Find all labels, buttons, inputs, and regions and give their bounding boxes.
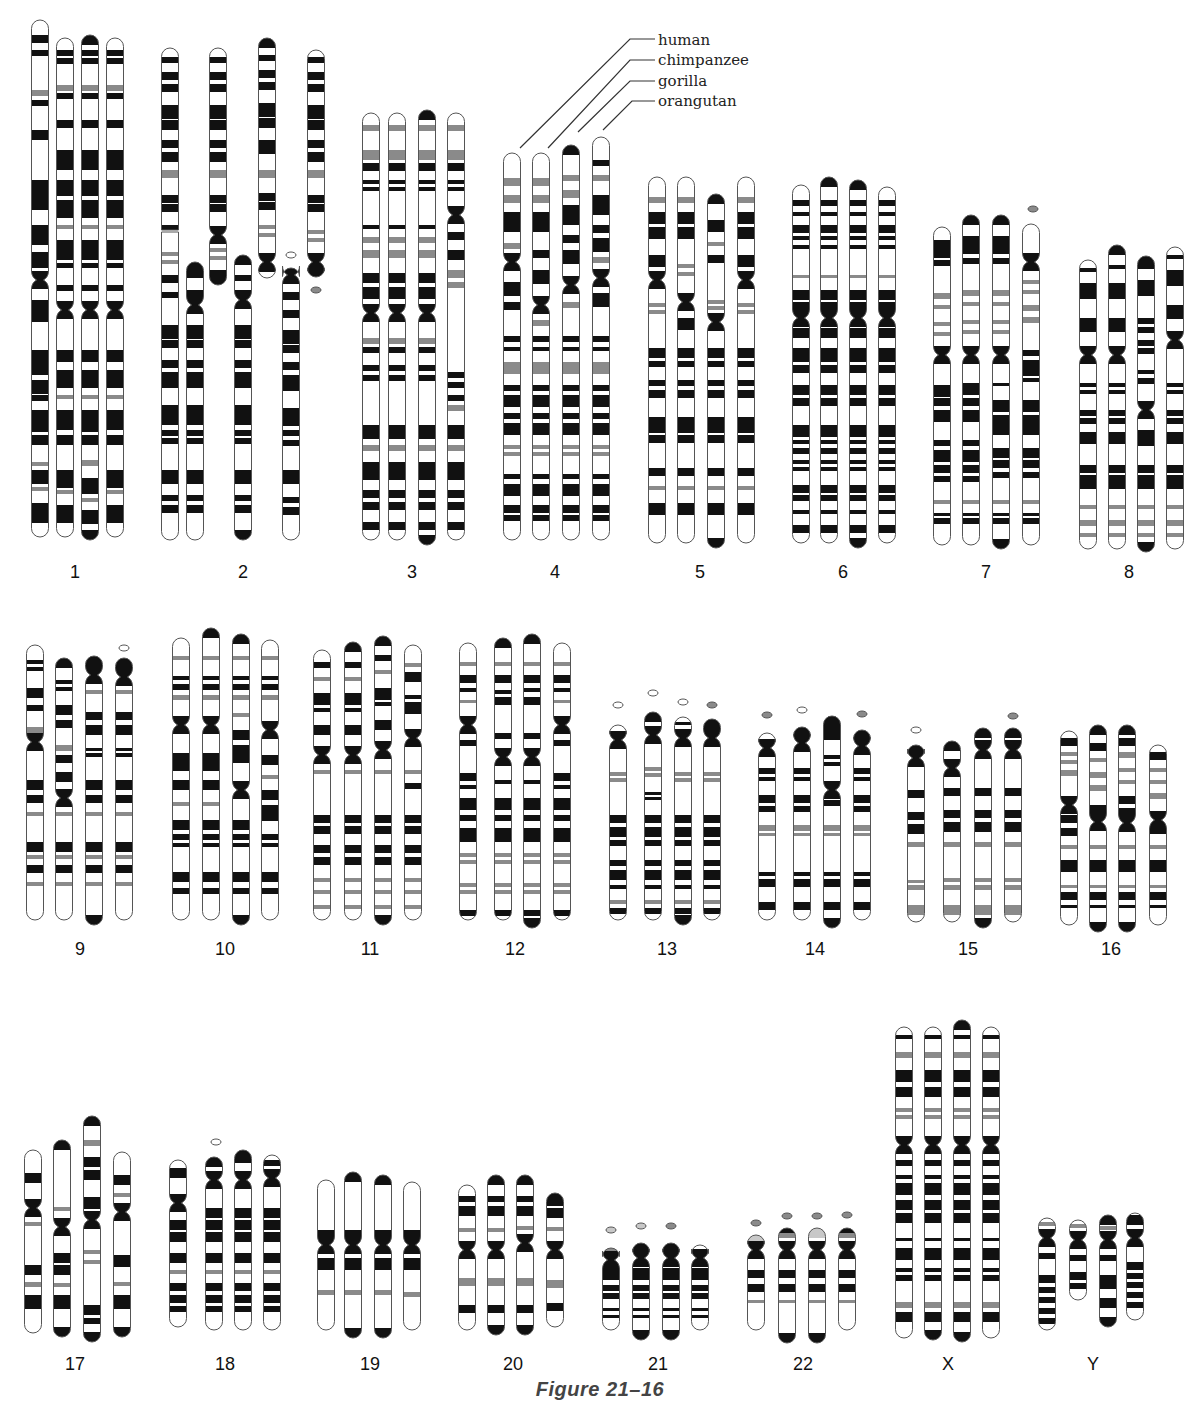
chromosome-group-16: 16 xyxy=(1061,725,1167,959)
chromatid-3-chimpanzee xyxy=(389,113,406,540)
satellite-icon xyxy=(857,711,867,717)
chromatid-16-gorilla xyxy=(1119,725,1136,932)
chromatid-21-orangutan xyxy=(692,1245,709,1330)
chromatid-5-gorilla xyxy=(708,194,725,548)
leader-line-orangutan xyxy=(603,101,655,130)
satellite-icon xyxy=(286,252,296,258)
chromosome-label-20: 20 xyxy=(503,1354,523,1374)
chromatid-20-gorilla xyxy=(517,1175,534,1335)
chromosome-label-19: 19 xyxy=(360,1354,380,1374)
chromosome-label-4: 4 xyxy=(550,562,560,582)
chromatid-5-human xyxy=(649,177,666,543)
chromatid-22-orangutan xyxy=(839,1228,856,1330)
chromatid-7-orangutan xyxy=(1023,224,1040,545)
chromatid-8-orangutan xyxy=(1167,247,1184,549)
chromosome-group-10: 10 xyxy=(173,628,279,959)
chromatid-12-orangutan xyxy=(554,643,571,920)
chromatid-12-human xyxy=(460,643,477,920)
chromatid-18-chimpanzee xyxy=(206,1157,223,1330)
chromatid-1-chimpanzee xyxy=(57,38,74,537)
chromatid-13-gorilla xyxy=(675,717,692,925)
chromatid-21-human xyxy=(603,1248,620,1330)
satellite-icon xyxy=(797,707,807,713)
chromosome-group-15: 15 xyxy=(908,713,1022,959)
satellite-icon xyxy=(762,712,772,718)
chromosome-label-1: 1 xyxy=(70,562,80,582)
chromosome-group-12: 12 xyxy=(460,634,571,959)
chromatid-5-orangutan xyxy=(738,177,755,543)
chromatid-2-human xyxy=(162,48,179,230)
chromosome-label-12: 12 xyxy=(505,939,525,959)
chromosome-group-7: 7 xyxy=(934,206,1040,582)
chromosome-group-2: 2 xyxy=(162,38,325,582)
chromatid-X-gorilla xyxy=(954,1020,971,1342)
chromosome-group-18: 18 xyxy=(170,1139,281,1374)
chromosome-label-18: 18 xyxy=(215,1354,235,1374)
band-pattern xyxy=(488,1175,505,1335)
chromatid-15-orangutan xyxy=(1005,728,1022,922)
chromosome-label-14: 14 xyxy=(805,939,825,959)
band-pattern xyxy=(206,1157,223,1312)
satellite-icon xyxy=(613,702,623,708)
satellite-icon xyxy=(119,645,129,651)
chromatid-16-orangutan xyxy=(1150,745,1167,925)
chromatid-Y-human xyxy=(1039,1218,1056,1330)
chromatid-9-human xyxy=(27,645,44,920)
chromosome-group-22: 22 xyxy=(748,1212,856,1374)
chromosome-group-20: 20 xyxy=(459,1175,564,1374)
chromosome-group-5: 5 xyxy=(649,177,755,582)
chromatid-2-orangutan xyxy=(210,48,227,285)
band-pattern xyxy=(187,262,204,513)
chromatid-4-orangutan xyxy=(593,137,610,540)
chromatid-12-chimpanzee xyxy=(495,638,512,920)
satellite-icon xyxy=(648,690,658,696)
chromatid-Y-orangutan xyxy=(1127,1213,1144,1320)
satellite-icon xyxy=(636,1223,646,1229)
chromatid-X-orangutan xyxy=(983,1027,1000,1338)
chromatid-3-human xyxy=(363,113,380,540)
chromatid-3-orangutan xyxy=(448,113,465,540)
chromatid-2-extra-5 xyxy=(259,38,276,278)
chromatid-22-chimpanzee xyxy=(779,1228,796,1343)
band-pattern xyxy=(944,741,961,915)
chromatid-X-human xyxy=(896,1027,913,1338)
chromatid-18-human xyxy=(170,1160,187,1327)
satellite-icon xyxy=(606,1227,616,1233)
legend-label-human: human xyxy=(658,31,710,49)
satellite-icon xyxy=(678,699,688,705)
chromatid-13-chimpanzee xyxy=(645,712,662,920)
chromatid-2-chimpanzee xyxy=(162,232,179,540)
legend-label-chimpanzee: chimpanzee xyxy=(658,51,749,69)
chromatid-8-gorilla xyxy=(1138,256,1155,552)
chromatid-9-gorilla xyxy=(86,656,103,925)
satellite-icon xyxy=(707,702,717,708)
band-pattern xyxy=(1070,1224,1087,1289)
chromatid-1-orangutan xyxy=(107,38,124,537)
chromatid-14-orangutan xyxy=(854,730,871,920)
legend-leader-lines xyxy=(520,39,655,148)
chromosome-label-X: X xyxy=(942,1354,954,1374)
chromatid-16-human xyxy=(1061,731,1078,925)
chromosome-group-3: 3 xyxy=(363,110,465,582)
chromosome-label-22: 22 xyxy=(793,1354,813,1374)
chromatid-9-orangutan xyxy=(116,658,133,920)
chromatid-18-orangutan xyxy=(264,1155,281,1330)
chromosome-group-6: 6 xyxy=(793,177,896,582)
satellite-icon xyxy=(211,1139,221,1145)
band-pattern xyxy=(983,1035,1000,1322)
chromosome-group-21: 21 xyxy=(603,1223,709,1374)
chromatid-22-gorilla xyxy=(809,1228,826,1343)
chromatid-19-human xyxy=(318,1180,335,1330)
chromatid-7-gorilla xyxy=(993,215,1010,549)
legend-label-gorilla: gorilla xyxy=(658,72,707,90)
satellite-icon xyxy=(1008,713,1018,719)
chromatid-14-chimpanzee xyxy=(794,727,811,920)
chromatid-15-gorilla xyxy=(975,728,992,928)
chromatid-11-human xyxy=(314,650,331,920)
chromatid-10-gorilla xyxy=(233,634,250,925)
band-pattern xyxy=(896,1035,913,1322)
chromatid-2-extra-7 xyxy=(308,50,325,277)
chromosome-group-13: 13 xyxy=(610,690,721,959)
chromatid-6-chimpanzee xyxy=(821,177,838,543)
satellite-icon xyxy=(812,1213,822,1219)
